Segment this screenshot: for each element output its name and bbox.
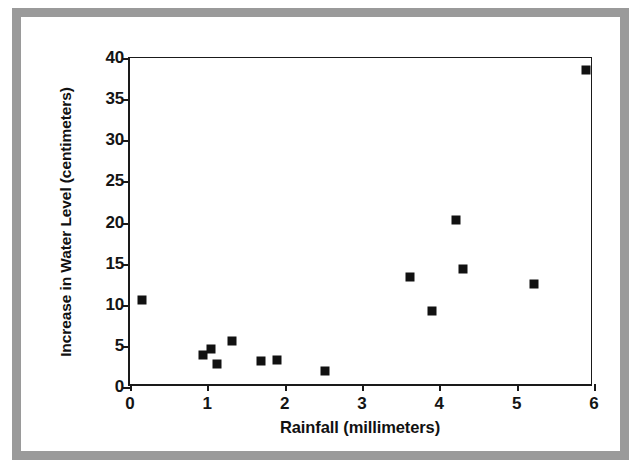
y-tick-15 [123, 264, 130, 266]
x-tick-label-1: 1 [203, 394, 212, 414]
y-tick-label-30: 30 [105, 130, 124, 150]
x-tick-label-0: 0 [125, 394, 134, 414]
x-tick-label-6: 6 [589, 394, 598, 414]
y-tick-25 [123, 181, 130, 183]
x-tick-label-3: 3 [357, 394, 366, 414]
data-point [529, 280, 538, 289]
y-tick-label-5: 5 [115, 336, 124, 356]
data-point [582, 66, 591, 75]
x-tick-0 [130, 384, 132, 391]
data-point [257, 356, 266, 365]
x-tick-5 [517, 384, 519, 391]
x-tick-2 [285, 384, 287, 391]
x-tick-6 [594, 384, 596, 391]
y-tick-35 [123, 99, 130, 101]
data-point [427, 306, 436, 315]
y-axis-label: Increase in Water Level (centimeters) [54, 57, 78, 386]
x-tick-label-2: 2 [280, 394, 289, 414]
y-tick-label-0: 0 [115, 377, 124, 397]
data-point [212, 359, 221, 368]
x-tick-label-5: 5 [512, 394, 521, 414]
data-point [405, 272, 414, 281]
y-tick-30 [123, 140, 130, 142]
x-tick-1 [207, 384, 209, 391]
y-tick-label-25: 25 [105, 171, 124, 191]
y-axis-label-text: Increase in Water Level (centimeters) [57, 87, 75, 357]
x-axis-label: Rainfall (millimeters) [128, 418, 592, 437]
x-tick-3 [362, 384, 364, 391]
y-tick-label-15: 15 [105, 254, 124, 274]
y-tick-40 [123, 58, 130, 60]
data-point [228, 336, 237, 345]
y-tick-label-35: 35 [105, 89, 124, 109]
y-tick-10 [123, 305, 130, 307]
data-point [452, 216, 461, 225]
y-tick-20 [123, 223, 130, 225]
data-point [458, 264, 467, 273]
data-point [320, 367, 329, 376]
x-tick-4 [439, 384, 441, 391]
data-point [137, 295, 146, 304]
y-tick-label-40: 40 [105, 48, 124, 68]
y-tick-label-10: 10 [105, 295, 124, 315]
plot-area: 0510152025303540 0123456 [128, 57, 592, 386]
scatter-plot-figure: 0510152025303540 0123456 Increase in Wat… [0, 0, 641, 474]
data-point [272, 355, 281, 364]
y-tick-label-20: 20 [105, 213, 124, 233]
data-point [207, 345, 216, 354]
y-tick-0 [123, 387, 130, 389]
y-tick-5 [123, 346, 130, 348]
x-tick-label-4: 4 [435, 394, 444, 414]
